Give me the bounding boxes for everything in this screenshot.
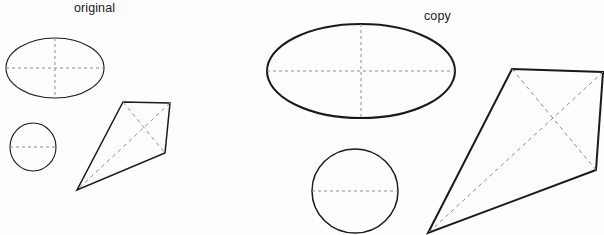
geometry-illustration bbox=[0, 0, 604, 235]
circle-copy bbox=[312, 149, 398, 233]
shape-group-copy bbox=[267, 24, 603, 233]
ellipse-original bbox=[6, 38, 104, 98]
kite-original-diagonal-a bbox=[123, 102, 165, 153]
figure-canvas: original copy bbox=[0, 0, 604, 235]
kite-copy-diagonal-a bbox=[512, 69, 596, 170]
label-original: original bbox=[74, 1, 115, 15]
shape-group-original bbox=[6, 38, 170, 190]
kite-copy bbox=[428, 69, 603, 233]
circle-original bbox=[10, 123, 56, 171]
kite-copy-outline bbox=[428, 69, 603, 233]
label-copy: copy bbox=[424, 9, 451, 23]
kite-copy-diagonal-b bbox=[428, 72, 603, 233]
ellipse-copy bbox=[267, 24, 455, 118]
kite-original bbox=[77, 102, 170, 190]
kite-original-diagonal-b bbox=[77, 103, 170, 190]
